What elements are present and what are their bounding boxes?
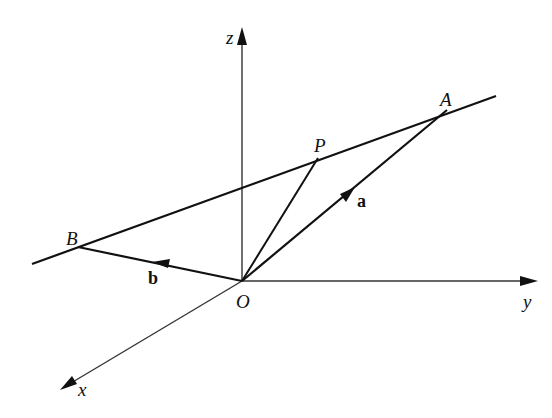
line-AB (32, 96, 496, 264)
x-axis-arrow-icon (60, 376, 77, 390)
z-axis-arrow-icon (237, 27, 247, 45)
point-A-label: A (440, 90, 452, 109)
z-axis-label: z (226, 28, 233, 47)
vector-a-arrow-icon (340, 187, 355, 202)
vector-line-diagram (0, 0, 552, 418)
vector-a-label: a (357, 192, 366, 210)
vector-b-label: b (148, 269, 158, 287)
y-axis-label: y (523, 292, 531, 311)
point-B-label: B (66, 229, 78, 248)
segment-OP (242, 158, 318, 281)
x-axis-label: x (78, 380, 86, 399)
point-O-label: O (236, 292, 250, 311)
y-axis-arrow-icon (520, 276, 538, 286)
point-P-label: P (314, 136, 326, 155)
x-axis (66, 281, 242, 386)
